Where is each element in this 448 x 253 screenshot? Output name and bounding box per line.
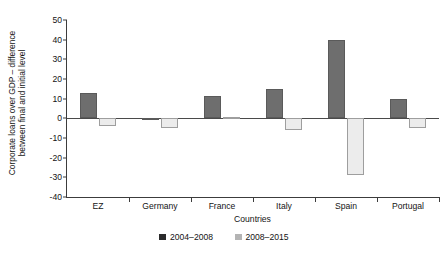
bar-italy-series-1 (285, 118, 302, 130)
y-axis-label-line-2: between final and initial level (17, 30, 27, 174)
y-axis-tick-label: 0 (57, 113, 62, 123)
chart-legend: 2004–2008 2008–2015 (0, 232, 448, 242)
legend-item-1: 2008–2015 (235, 232, 289, 242)
x-axis-category-label: France (209, 201, 236, 211)
bar-portugal-series-1 (409, 118, 426, 128)
y-axis-tick-label: 50 (52, 15, 62, 25)
x-axis-tick-mark (315, 197, 316, 202)
category-group-spain: Spain (315, 20, 377, 197)
bar-spain-series-0 (328, 40, 345, 119)
plot-area: 50403020100-10-20-30-40EZGermanyFranceIt… (66, 20, 439, 198)
bar-france-series-1 (223, 117, 240, 119)
y-axis-tick-label: -20 (50, 153, 62, 163)
y-axis-label-container: Corporate loans over GDP – difference be… (0, 0, 34, 205)
x-axis-tick-mark (191, 197, 192, 202)
y-axis-tick-label: 40 (52, 35, 62, 45)
chart-figure: Corporate loans over GDP – difference be… (0, 0, 448, 253)
bar-ez-series-1 (99, 118, 116, 126)
y-axis-tick-label: 20 (52, 74, 62, 84)
x-axis-category-label: EZ (93, 201, 104, 211)
category-group-ez: EZ (67, 20, 129, 197)
legend-swatch-icon-0 (159, 234, 166, 241)
category-group-italy: Italy (253, 20, 315, 197)
bar-germany-series-0 (142, 118, 159, 120)
y-axis-tick-label: 10 (52, 94, 62, 104)
x-axis-tick-mark (253, 197, 254, 202)
x-axis-tick-mark (129, 197, 130, 202)
x-axis-category-label: Spain (335, 201, 357, 211)
y-axis-tick-label: 30 (52, 54, 62, 64)
y-axis-label: Corporate loans over GDP – difference be… (7, 30, 28, 174)
legend-label-0: 2004–2008 (170, 232, 213, 242)
legend-label-1: 2008–2015 (246, 232, 289, 242)
bar-portugal-series-0 (390, 99, 407, 119)
category-group-france: France (191, 20, 253, 197)
category-group-germany: Germany (129, 20, 191, 197)
legend-swatch-icon-1 (235, 234, 242, 241)
x-axis-category-label: Germany (142, 201, 177, 211)
bar-spain-series-1 (347, 118, 364, 175)
bar-italy-series-0 (266, 89, 283, 119)
bar-ez-series-0 (80, 93, 97, 119)
y-axis-label-line-1: Corporate loans over GDP – difference (7, 30, 17, 174)
x-axis-category-label: Italy (276, 201, 292, 211)
x-axis-tick-mark (377, 197, 378, 202)
bar-france-series-0 (204, 96, 221, 119)
bar-germany-series-1 (161, 118, 178, 128)
x-axis-category-label: Portugal (392, 201, 424, 211)
category-group-portugal: Portugal (377, 20, 439, 197)
x-axis-label: Countries (66, 214, 439, 224)
y-axis-tick-label: -30 (50, 172, 62, 182)
y-axis-tick-label: -10 (50, 133, 62, 143)
y-axis-tick-label: -40 (50, 192, 62, 202)
legend-item-0: 2004–2008 (159, 232, 213, 242)
x-axis-tick-mark (439, 197, 440, 202)
